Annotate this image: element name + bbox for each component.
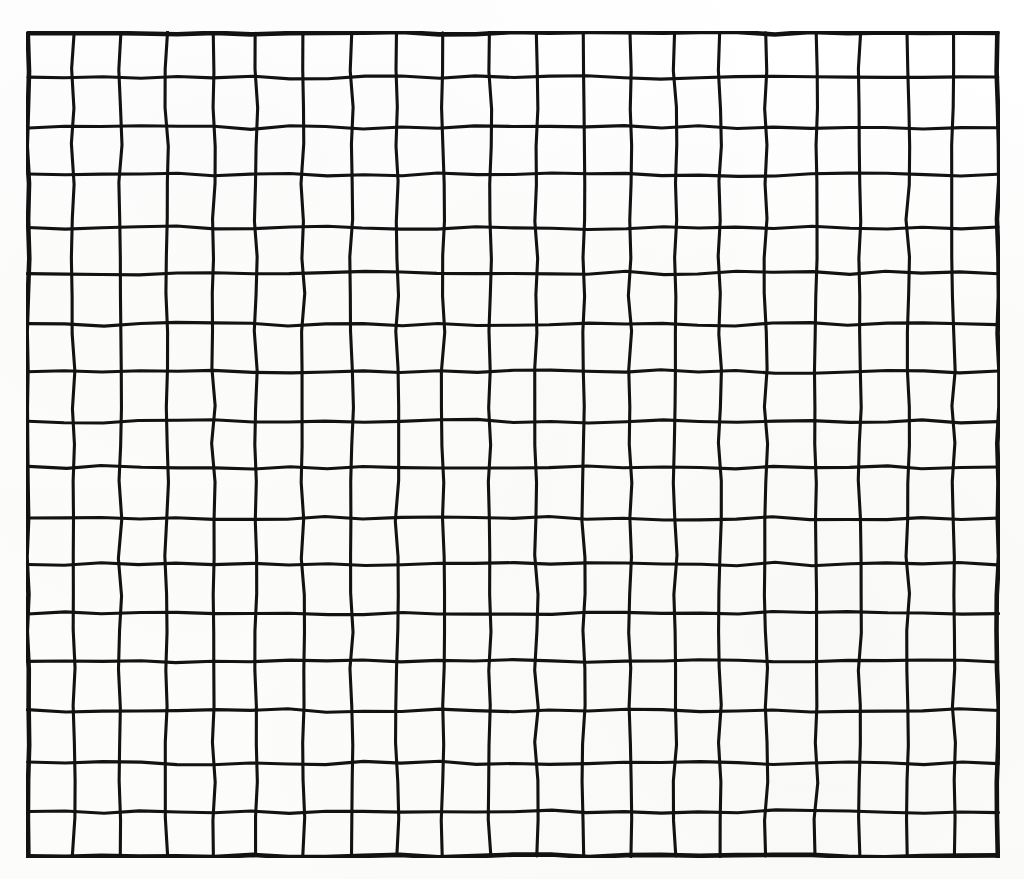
grid-inner-line	[28, 173, 997, 176]
grid-inner-line	[582, 34, 585, 855]
grid-inner-line	[718, 33, 721, 857]
grid-inner-line	[165, 32, 169, 855]
grid-inner-line	[28, 612, 999, 615]
grid-inner-line	[28, 226, 998, 229]
grid-inner-line	[395, 33, 398, 856]
grid-inner-line	[301, 32, 305, 855]
page-canvas	[0, 0, 1024, 879]
grid-inner-line	[28, 761, 999, 765]
grid-lines	[27, 32, 1000, 857]
grid-inner-line	[71, 32, 75, 856]
grid-inner-line	[27, 271, 998, 275]
grid-inner-line	[29, 126, 998, 130]
grid-inner-line	[488, 33, 491, 857]
grid-inner-line	[27, 660, 997, 663]
grid-border-line	[28, 32, 997, 35]
grid-inner-line	[628, 34, 631, 857]
grid-inner-line	[906, 34, 910, 857]
grid-border-line	[27, 855, 998, 858]
grid-inner-line	[350, 33, 354, 855]
grid-inner-line	[254, 33, 257, 855]
grid-inner-line	[441, 33, 445, 856]
grid-border-line	[997, 33, 1000, 857]
grid-inner-line	[29, 810, 999, 814]
grid-inner-line	[27, 322, 997, 326]
grid-inner-line	[212, 34, 216, 856]
grid-figure	[26, 31, 1000, 858]
grid-inner-line	[28, 466, 999, 469]
grid-border-line	[27, 34, 30, 857]
grid-inner-line	[952, 33, 956, 857]
grid-inner-line	[28, 76, 998, 79]
grid-inner-line	[858, 33, 861, 856]
grid-inner-line	[814, 32, 818, 855]
grid-inner-line	[535, 33, 539, 856]
grid-inner-line	[27, 370, 998, 373]
grid-inner-line	[27, 709, 999, 713]
grid-inner-line	[28, 516, 998, 520]
grid-inner-line	[28, 419, 997, 423]
grid-inner-line	[764, 33, 768, 856]
grid-inner-line	[673, 33, 677, 856]
grid-inner-line	[28, 562, 998, 566]
grid-inner-line	[118, 32, 122, 857]
grid-svg	[26, 31, 1000, 858]
